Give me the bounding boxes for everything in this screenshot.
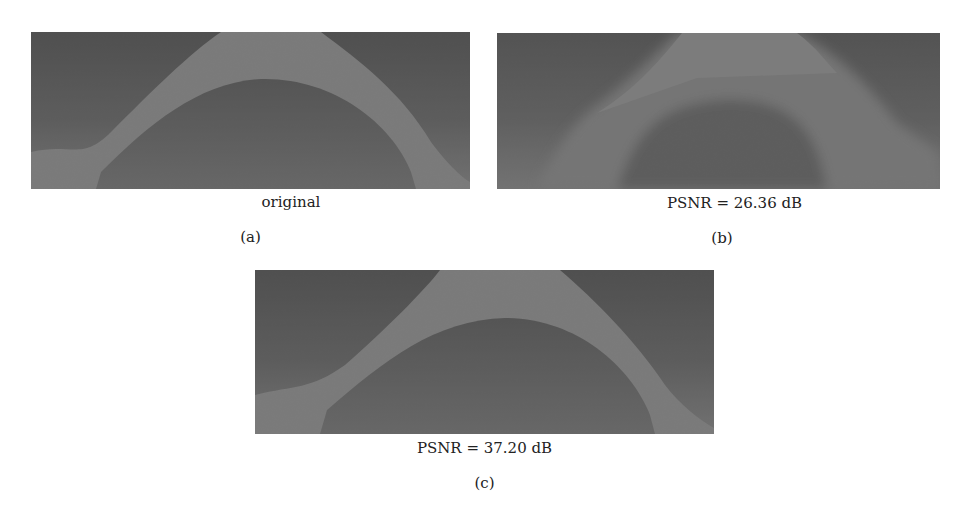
image-original: [31, 32, 470, 189]
image-psnr-26: [497, 33, 940, 189]
panel-b-caption: PSNR = 26.36 dB: [497, 194, 965, 212]
panel-a-label: (a): [31, 228, 470, 246]
panel-a-caption: original: [31, 193, 551, 211]
panel-b-label: (b): [497, 229, 947, 247]
image-psnr-37: [255, 270, 714, 434]
panel-c-label: (c): [255, 474, 714, 492]
panel-c-caption: PSNR = 37.20 dB: [255, 439, 714, 457]
